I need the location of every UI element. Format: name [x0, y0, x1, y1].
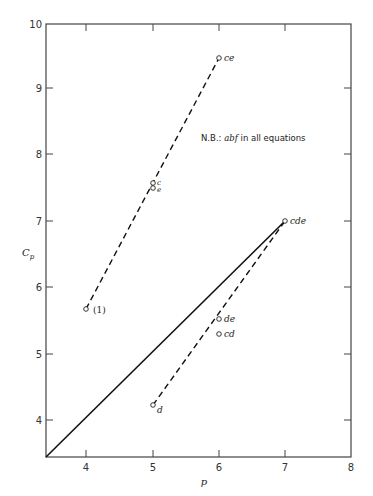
y-tick-6: 6	[36, 282, 42, 293]
x-tick-8: 8	[348, 462, 354, 473]
y-tick-4: 4	[36, 415, 42, 426]
data-points	[84, 56, 288, 408]
plot-frame	[46, 24, 351, 457]
x-tick-4: 4	[83, 462, 89, 473]
y-tick-7: 7	[36, 216, 42, 227]
x-tick-6: 6	[216, 462, 222, 473]
label-e: e	[157, 186, 161, 194]
y-axis-label: Cp	[22, 247, 35, 261]
point-cd	[217, 332, 222, 337]
x-tick-7: 7	[282, 462, 288, 473]
label-cd: cd	[224, 329, 235, 339]
label-de: de	[224, 314, 235, 324]
point-ce	[217, 56, 222, 61]
label-cde: cde	[290, 216, 306, 226]
dashed-line-lower	[153, 221, 285, 405]
point-d	[151, 403, 156, 408]
point-cde	[283, 219, 288, 224]
point-e	[151, 186, 156, 191]
y-tick-5: 5	[36, 349, 42, 360]
y-tick-10: 10	[29, 19, 42, 30]
cp-plot: 4 5 6 7 8 4 5 6 7 8 9 10 p Cp (1) c e ce…	[0, 0, 373, 496]
point-c	[151, 181, 156, 186]
y-tick-8: 8	[36, 149, 42, 160]
point-1	[84, 307, 89, 312]
y-tick-9: 9	[36, 83, 42, 94]
reference-line	[46, 221, 285, 457]
label-ce: ce	[224, 53, 234, 63]
x-tick-5: 5	[150, 462, 156, 473]
x-axis-label: p	[201, 476, 208, 487]
label-1: (1)	[93, 305, 106, 315]
point-de	[217, 317, 222, 322]
label-d: d	[157, 405, 163, 415]
annotation-note: N.B.: abf in all equations	[201, 133, 306, 143]
x-ticks	[86, 24, 285, 457]
